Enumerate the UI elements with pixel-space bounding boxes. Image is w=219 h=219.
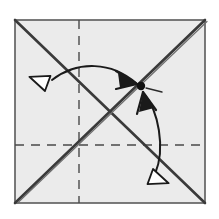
origami-diagram: Origami fold step diagram Square sheet o… (0, 0, 219, 219)
fold-target-point (137, 82, 145, 90)
diagram-canvas: Origami fold step diagram Square sheet o… (0, 0, 219, 219)
